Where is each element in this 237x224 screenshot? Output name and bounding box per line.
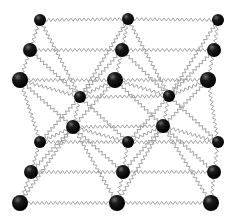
atom-ball [34,136,46,148]
spring-bond [40,18,128,22]
spring-bond [40,140,128,143]
lattice-diagram: Ball-and-spring crystal lattice model [0,0,237,224]
atom-ball [66,120,80,134]
spring-bond [115,80,163,126]
atom-ball [212,14,224,26]
atom-ball [207,165,221,179]
spring-bond [128,96,169,142]
atom-ball [200,72,216,88]
atom-ball [12,195,28,211]
atom-ball [23,43,37,57]
spring-bond [31,170,123,173]
spring-bond [117,201,211,204]
atom-ball [122,136,134,148]
atom-ball [74,91,86,103]
atom-ball [115,43,129,57]
spring-bond [128,19,170,96]
spring-bond [20,201,117,204]
spring-bond [122,50,169,96]
spring-bond [19,80,41,142]
atom-ball [107,72,123,88]
atom-ball [212,136,224,148]
spring-bond [207,80,219,142]
spring-bond [20,78,115,81]
spring-bond [20,127,73,203]
spring-bond [40,20,81,97]
spring-bond [163,80,208,126]
spring-bond [115,80,169,97]
lattice-svg [0,0,237,224]
spring-bond [163,126,214,172]
spring-bond [73,125,163,129]
atom-ball [207,43,221,57]
atoms [12,13,224,211]
spring-bond [73,127,128,143]
atom-ball [156,119,170,133]
spring-bond [128,18,218,22]
atom-ball [203,195,219,211]
atom-ball [34,14,46,26]
spring-bond [80,97,128,142]
atom-ball [116,165,130,179]
atom-ball [24,165,38,179]
spring-bond [80,95,169,99]
atom-ball [122,13,134,25]
atom-ball [12,72,28,88]
atom-ball [109,195,125,211]
atom-ball [163,90,175,102]
spring-bond [73,80,115,127]
